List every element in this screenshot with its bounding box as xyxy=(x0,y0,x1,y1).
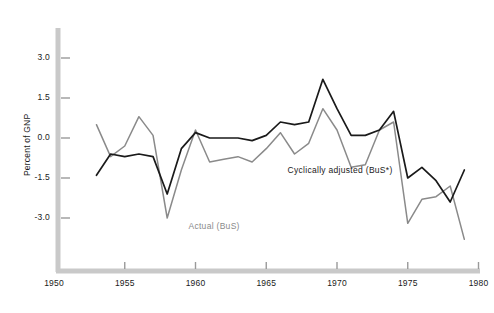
x-tick-marks xyxy=(125,262,479,269)
x-tick-label: 1970 xyxy=(317,278,357,288)
series-line-actual xyxy=(96,109,464,240)
y-tick-label: 3.0 xyxy=(20,52,50,62)
x-tick-label: 1965 xyxy=(246,278,286,288)
y-tick-label: -1.5 xyxy=(20,172,50,182)
x-tick-label: 1975 xyxy=(388,278,428,288)
x-tick-label: 1955 xyxy=(105,278,145,288)
y-tick-label: 0.0 xyxy=(20,132,50,142)
y-tick-label: 1.5 xyxy=(20,92,50,102)
series-line-cyclically-adjusted xyxy=(96,79,464,202)
chart-figure: Percent of GNP 3.01.50.0-1.5-3.0 1950195… xyxy=(0,0,494,313)
x-tick-label: 1960 xyxy=(176,278,216,288)
x-tick-label: 1980 xyxy=(459,278,494,288)
y-axis-title: Percent of GNP xyxy=(22,114,32,176)
y-tick-label: -3.0 xyxy=(20,212,50,222)
x-tick-label: 1950 xyxy=(34,278,74,288)
series-label-actual: Actual (BuS) xyxy=(188,221,239,231)
data-series-layer xyxy=(96,79,464,239)
series-label-cyclically-adjusted: Cyclically adjusted (BuS*) xyxy=(287,165,392,175)
y-tick-marks xyxy=(61,58,70,218)
chart-plot-area xyxy=(0,0,494,313)
